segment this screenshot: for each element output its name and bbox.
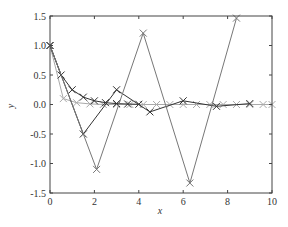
series-line bbox=[50, 46, 272, 105]
x-marker-icon bbox=[69, 86, 76, 93]
line-chart: 0246810-1.5-1.0-0.50.00.51.01.5 x y bbox=[0, 0, 288, 227]
x-marker-icon bbox=[186, 180, 193, 187]
plot-area bbox=[47, 15, 276, 187]
x-tick-label: 8 bbox=[225, 196, 230, 207]
series-growing-oscillation bbox=[47, 15, 240, 187]
series-dark-alternating bbox=[47, 42, 254, 138]
y-tick-label: 1.0 bbox=[34, 40, 47, 51]
series-line bbox=[50, 46, 250, 135]
x-marker-icon bbox=[80, 94, 87, 101]
x-marker-icon bbox=[146, 108, 153, 115]
x-tick-label: 10 bbox=[267, 196, 277, 207]
y-tick-label: 0.0 bbox=[34, 99, 47, 110]
y-tick-label: -1.0 bbox=[30, 158, 46, 169]
x-tick-label: 4 bbox=[136, 196, 141, 207]
series-line bbox=[50, 18, 237, 183]
y-tick-label: -1.5 bbox=[30, 188, 46, 199]
y-axis-label: y bbox=[5, 103, 16, 109]
x-axis-label: x bbox=[157, 205, 163, 216]
y-tick-label: 1.5 bbox=[34, 11, 47, 22]
x-marker-icon bbox=[93, 166, 100, 173]
x-marker-icon bbox=[60, 95, 67, 102]
x-tick-label: 0 bbox=[48, 196, 53, 207]
x-tick-label: 6 bbox=[181, 196, 186, 207]
y-tick-label: 0.5 bbox=[34, 70, 47, 81]
y-tick-label: -0.5 bbox=[30, 129, 46, 140]
x-marker-icon bbox=[113, 86, 120, 93]
series-light-decay bbox=[47, 42, 276, 108]
x-marker-icon bbox=[140, 30, 147, 37]
x-tick-label: 2 bbox=[92, 196, 97, 207]
